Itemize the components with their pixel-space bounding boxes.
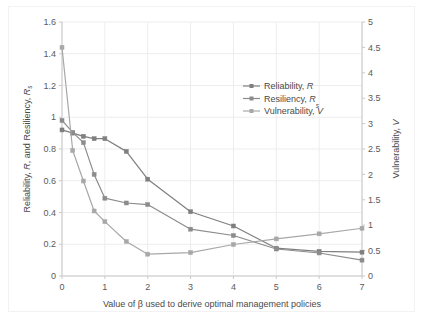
y-axis-left-tick-label: 0.8 xyxy=(43,144,56,154)
y-axis-right-tick-label: 3.5 xyxy=(368,93,381,103)
legend-item-label: Vulnerability, V xyxy=(264,106,324,116)
chart-figure: 00.20.40.60.811.21.41.600.511.522.533.54… xyxy=(0,0,423,324)
data-point-marker xyxy=(81,134,85,138)
x-axis-tick-label: 0 xyxy=(59,282,64,292)
data-point-marker xyxy=(189,210,193,214)
x-axis-tick-label: 3 xyxy=(188,282,193,292)
x-axis-tick-label: 2 xyxy=(145,282,150,292)
x-axis-tick-label: 7 xyxy=(359,282,364,292)
legend-marker-swatch xyxy=(250,97,254,101)
data-point-marker xyxy=(81,179,85,183)
y-axis-right-tick-label: 5 xyxy=(368,17,373,27)
y-axis-right-tick-label: 1.5 xyxy=(368,195,381,205)
data-point-marker xyxy=(317,251,321,255)
x-axis-tick-label: 1 xyxy=(102,282,107,292)
y-axis-left-tick-label: 1.2 xyxy=(43,81,56,91)
data-point-marker xyxy=(124,239,128,243)
data-point-marker xyxy=(103,137,107,141)
data-point-marker xyxy=(103,220,107,224)
data-point-marker xyxy=(60,118,64,122)
y-axis-left-tick-label: 0.2 xyxy=(43,239,56,249)
data-point-marker xyxy=(92,209,96,213)
legend-marker-swatch xyxy=(250,84,254,88)
x-axis-tick-label: 5 xyxy=(274,282,279,292)
data-point-marker xyxy=(360,226,364,230)
y-axis-right-tick-label: 0 xyxy=(368,271,373,281)
y-axis-left-title: Reliability, R, and Resiliency, Rs xyxy=(22,85,33,213)
data-point-marker xyxy=(92,172,96,176)
data-point-marker xyxy=(124,149,128,153)
data-point-marker xyxy=(274,237,278,241)
y-axis-right-tick-label: 4.5 xyxy=(368,43,381,53)
y-axis-left-tick-label: 0.4 xyxy=(43,208,56,218)
data-point-marker xyxy=(189,251,193,255)
x-axis-title: Value of β used to derive optimal manage… xyxy=(103,299,322,309)
y-axis-right-tick-label: 2 xyxy=(368,170,373,180)
data-point-marker xyxy=(60,128,64,132)
data-point-marker xyxy=(231,224,235,228)
x-axis-tick-label: 4 xyxy=(231,282,236,292)
data-point-marker xyxy=(317,232,321,236)
data-point-marker xyxy=(146,177,150,181)
data-point-marker xyxy=(146,203,150,207)
legend-marker-swatch xyxy=(250,109,254,113)
y-axis-left-tick-label: 1.6 xyxy=(43,17,56,27)
data-point-marker xyxy=(146,252,150,256)
data-point-marker xyxy=(231,234,235,238)
y-axis-right-tick-label: 1 xyxy=(368,220,373,230)
data-point-marker xyxy=(231,243,235,247)
legend: Reliability, RResiliency, RsVulnerabilit… xyxy=(243,81,324,116)
data-point-marker xyxy=(189,227,193,231)
y-axis-left-tick-label: 1 xyxy=(51,112,56,122)
y-axis-left-tick-label: 0.6 xyxy=(43,176,56,186)
y-axis-right-title: Vulnerability, V xyxy=(391,118,401,178)
data-point-marker xyxy=(360,250,364,254)
data-point-marker xyxy=(103,196,107,200)
data-point-marker xyxy=(274,247,278,251)
plot-area-wrapper: 00.20.40.60.811.21.41.600.511.522.533.54… xyxy=(0,0,423,324)
y-axis-left-tick-label: 0 xyxy=(51,271,56,281)
data-point-marker xyxy=(360,258,364,262)
y-axis-right-tick-label: 3 xyxy=(368,119,373,129)
y-axis-right-tick-label: 0.5 xyxy=(368,246,381,256)
data-point-marker xyxy=(92,137,96,141)
legend-item-label: Reliability, R xyxy=(264,81,314,91)
data-point-marker xyxy=(60,45,64,49)
y-axis-left-tick-label: 1.4 xyxy=(43,49,56,59)
y-axis-right-tick-label: 2.5 xyxy=(368,144,381,154)
line-chart: 00.20.40.60.811.21.41.600.511.522.533.54… xyxy=(0,0,423,324)
data-point-marker xyxy=(71,149,75,153)
data-point-marker xyxy=(81,141,85,145)
x-axis-tick-label: 6 xyxy=(317,282,322,292)
data-point-marker xyxy=(124,201,128,205)
y-axis-right-tick-label: 4 xyxy=(368,68,373,78)
